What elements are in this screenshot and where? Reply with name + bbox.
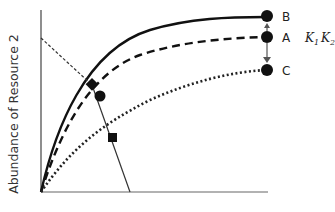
- curve-c-dotted: [41, 70, 266, 192]
- point-a: [261, 31, 273, 43]
- square-marker: [108, 133, 117, 142]
- label-b: B: [282, 10, 290, 24]
- curve-b-solid: [41, 17, 266, 192]
- dotted-diagonal-line: [41, 38, 92, 85]
- curve-a-dashed: [41, 37, 266, 192]
- k1-k2-label: K1K2: [304, 31, 335, 47]
- point-b: [261, 10, 273, 22]
- arrow-head-up-icon: [264, 23, 270, 28]
- circle-marker: [95, 91, 106, 102]
- diagram-canvas: B A C K1K2: [0, 0, 335, 212]
- arrow-head-down-icon: [263, 57, 271, 63]
- point-c: [261, 64, 273, 76]
- label-c: C: [282, 64, 290, 78]
- label-a: A: [282, 31, 291, 45]
